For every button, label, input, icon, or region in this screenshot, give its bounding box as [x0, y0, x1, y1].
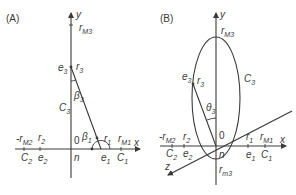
panel-b-x-axis-label: x: [279, 134, 286, 145]
panel-a-c2-label: C2: [21, 152, 32, 165]
panel-a-rm1-label: rM1: [118, 133, 131, 146]
panel-a-beta3-arc: [71, 80, 76, 81]
panel-a-origin-label: 0: [74, 135, 80, 146]
panel-a: (A) y rM3 x e3 r3 β3 C3 -rM2 r2 C2 e2 0 …: [6, 9, 140, 178]
panel-a-label: (A): [6, 13, 19, 24]
panel-b-c1-label: C1: [261, 149, 272, 162]
panel-a-y-axis-label: y: [75, 9, 82, 20]
panel-a-r3-label: r3: [76, 61, 83, 74]
panel-b-theta3-arc: [207, 118, 216, 120]
panel-a-r1-label: r1: [104, 133, 111, 146]
panel-b-rm3-min-label: rm3: [219, 164, 232, 177]
panel-b-origin-label: 0: [219, 130, 225, 141]
panel-a-e1-label: e1: [101, 152, 111, 165]
panel-b-theta3-label: θ3: [206, 102, 215, 115]
panel-b: (B) y rM3 x z e3 r3 θ3 C3 -rM2 r2 C2 e2 …: [159, 9, 292, 185]
diagram-canvas: (A) y rM3 x e3 r3 β3 C3 -rM2 r2 C2 e2 0 …: [0, 0, 296, 195]
panel-b-r3-label: r3: [197, 75, 204, 88]
panel-a-x-axis-label: x: [133, 137, 140, 148]
panel-a-c3-label: C3: [59, 102, 70, 115]
panel-b-e3-point: [192, 83, 195, 86]
panel-a-e3-label: e3: [58, 62, 68, 75]
panel-b-minus-rm2-label: -rM2: [159, 131, 176, 144]
panel-b-y-axis-label: y: [219, 9, 226, 20]
panel-a-beta1-arc: [92, 141, 98, 149]
panel-b-c3-label: C3: [244, 73, 255, 86]
panel-a-minus-rm2-label: -rM2: [16, 133, 33, 146]
panel-b-n-label: n: [219, 149, 225, 160]
panel-a-r2-label: r2: [38, 132, 45, 145]
panel-b-link-line: [193, 84, 216, 146]
panel-a-rm3-label: rM3: [79, 22, 92, 35]
panel-a-r1-point: [96, 137, 99, 140]
panel-a-e3-point: [70, 66, 73, 69]
panel-a-beta1-label: β1: [81, 131, 92, 144]
panel-b-e1-label: e1: [246, 149, 256, 162]
panel-b-e2-label: e2: [183, 148, 193, 161]
panel-a-beta3-label: β3: [73, 90, 84, 103]
panel-a-e2-label: e2: [38, 152, 48, 165]
panel-b-rm1-label: rM1: [260, 131, 273, 144]
panel-b-r2-label: r2: [183, 131, 190, 144]
panel-a-n-label: n: [74, 152, 80, 163]
panel-b-rm3-label: rM3: [221, 25, 234, 38]
panel-a-c1-label: C1: [117, 152, 128, 165]
panel-b-label: (B): [160, 13, 173, 24]
panel-b-z-axis-label: z: [164, 161, 170, 172]
panel-b-e3-label: e3: [182, 71, 192, 84]
panel-b-c2-label: C2: [166, 148, 177, 161]
